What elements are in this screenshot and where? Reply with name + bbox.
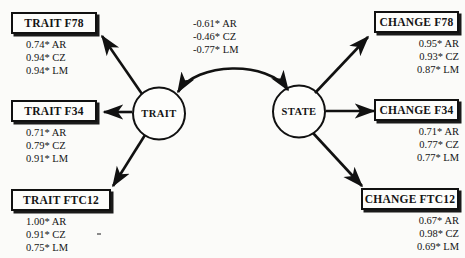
- trait-latent-label: TRAIT: [133, 108, 185, 119]
- correlation-value: -0.46* CZ: [193, 30, 239, 43]
- path-trait-to-trait-ftc12: [113, 135, 145, 186]
- loading-value: 0.94* CZ: [26, 51, 68, 64]
- indicator-label-change-f34: CHANGE F34: [380, 104, 454, 116]
- indicator-label-trait-f34: TRAIT F34: [24, 105, 83, 117]
- loading-value: 0.98* CZ: [339, 227, 459, 240]
- loading-value: 0.91* LM: [26, 152, 68, 165]
- clipped-caption-remnant: [0, 0, 465, 5]
- loading-value: 0.94* LM: [26, 64, 68, 77]
- loading-value: 0.91* CZ: [26, 228, 68, 241]
- indicator-label-change-ftc12: CHANGE FTC12: [365, 193, 455, 205]
- indicator-box-trait-ftc12: TRAIT FTC12: [11, 189, 111, 211]
- loadings-change-ftc12: 0.67* AR 0.98* CZ 0.69* LM: [339, 214, 459, 254]
- loading-value: 0.77* CZ: [339, 138, 459, 151]
- indicator-box-change-f34: CHANGE F34: [374, 99, 459, 121]
- loading-value: 0.67* AR: [339, 214, 459, 227]
- loadings-trait-f78: 0.74* AR 0.94* CZ 0.94* LM: [26, 38, 68, 78]
- loading-value: 0.93* CZ: [339, 50, 459, 63]
- loading-value: 0.71* AR: [339, 125, 459, 138]
- loadings-trait-f34: 0.71* AR 0.79* CZ 0.91* LM: [26, 126, 68, 166]
- loading-value: 1.00* AR: [26, 215, 68, 228]
- loading-value: 0.77* LM: [339, 151, 459, 164]
- clipped-caption-text: [0, 0, 3, 3]
- scan-artifact-speck: [97, 233, 101, 235]
- path-trait-state-correlation: [178, 68, 288, 92]
- loadings-change-f34: 0.71* AR 0.77* CZ 0.77* LM: [339, 125, 459, 165]
- loading-value: 0.87* LM: [339, 63, 459, 76]
- indicator-box-change-f78: CHANGE F78: [374, 11, 459, 33]
- indicator-box-trait-f34: TRAIT F34: [11, 100, 97, 122]
- correlation-value: -0.61* AR: [193, 17, 239, 30]
- path-trait-to-trait-f78: [102, 36, 142, 94]
- indicator-label-change-f78: CHANGE F78: [380, 16, 454, 28]
- loadings-trait-ftc12: 1.00* AR 0.91* CZ 0.75* LM: [26, 215, 68, 255]
- loading-value: 0.69* LM: [339, 240, 459, 253]
- indicator-box-change-ftc12: CHANGE FTC12: [361, 188, 459, 210]
- loading-value: 0.79* CZ: [26, 139, 68, 152]
- loading-value: 0.95* AR: [339, 37, 459, 50]
- correlation-value: -0.77* LM: [193, 43, 239, 56]
- indicator-box-trait-f78: TRAIT F78: [11, 12, 97, 34]
- state-latent-label: STATE: [273, 106, 325, 117]
- indicator-label-trait-ftc12: TRAIT FTC12: [23, 194, 99, 206]
- correlation-values: -0.61* AR -0.46* CZ -0.77* LM: [193, 17, 239, 57]
- loadings-change-f78: 0.95* AR 0.93* CZ 0.87* LM: [339, 37, 459, 77]
- loading-value: 0.71* AR: [26, 126, 68, 139]
- loading-value: 0.74* AR: [26, 38, 68, 51]
- loading-value: 0.75* LM: [26, 241, 68, 254]
- path-diagram: TRAIT STATE TRAIT F78 0.74* AR 0.94* CZ …: [0, 0, 465, 258]
- indicator-label-trait-f78: TRAIT F78: [24, 17, 83, 29]
